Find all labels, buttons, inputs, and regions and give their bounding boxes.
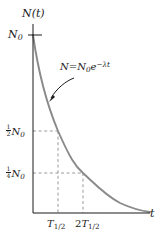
annotation-arrow <box>49 78 74 102</box>
y-axis-label: N(t) <box>22 8 45 19</box>
plot-area <box>0 0 164 240</box>
guide-lines <box>33 131 83 213</box>
x-tick-label-two-t-half: 2T1/2 <box>75 219 100 230</box>
y-tick-label-n0-sub: 0 <box>18 33 23 42</box>
y-tick-label-quarter-n0: 14N0 <box>6 166 25 180</box>
y-tick-label-half-n0: 12N0 <box>6 124 25 138</box>
annotation-arrow-curve <box>51 78 74 98</box>
x-tick-label-t-half: T1/2 <box>47 219 65 230</box>
x-axis-label: t <box>150 208 154 219</box>
axes <box>28 24 150 213</box>
y-tick-label-n0: N0 <box>8 29 23 42</box>
decay-curve-figure: N(t) t N0 12N0 14N0 T1/2 2T1/2 N=N0e−λt <box>0 0 164 240</box>
equation-annotation: N=N0e−λt <box>60 61 110 73</box>
